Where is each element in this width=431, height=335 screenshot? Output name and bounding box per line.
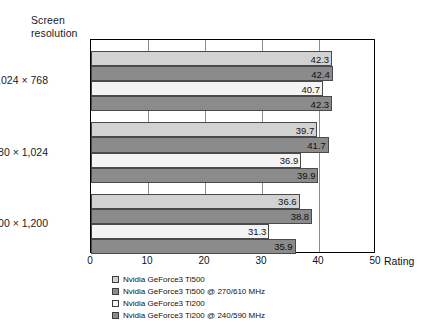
legend-swatch [112,300,119,307]
bar [91,153,301,168]
bar-value-label: 39.9 [288,170,315,181]
legend-label: Nvidia GeForce3 Ti200 [123,299,205,308]
category-label: 1,024 × 768 [0,74,48,86]
x-tick-label: 0 [87,255,93,266]
legend-item[interactable]: Nvidia GeForce3 Ti500 [112,274,265,285]
bar-value-label: 42.4 [303,68,330,79]
bar-row: 40.7 [91,81,374,96]
x-tick-label: 10 [141,255,152,266]
bar-row: 42.3 [91,96,374,111]
x-axis-title: Rating [384,255,414,267]
bar-value-label: 39.7 [287,124,314,135]
bar-value-label: 42.3 [302,53,329,64]
bar-row: 41.7 [91,137,374,152]
x-tick-label: 50 [369,255,380,266]
bar-chart: Screen resolution 42.342.440.742.339.741… [0,0,431,335]
bar-value-label: 36.6 [270,196,297,207]
bar-value-label: 41.7 [299,139,326,150]
legend: Nvidia GeForce3 Ti500Nvidia GeForce3 Ti5… [112,274,265,322]
bar-value-label: 36.9 [271,155,298,166]
x-tick-label: 30 [255,255,266,266]
plot-area: 42.342.440.742.339.741.736.939.936.638.8… [90,39,375,253]
legend-label: Nvidia GeForce3 Ti200 @ 240/590 MHz [123,311,265,320]
x-tick-label: 20 [198,255,209,266]
category-label: 1,600 × 1,200 [0,217,48,229]
legend-swatch [112,288,119,295]
y-axis-title: Screen resolution [31,14,78,40]
legend-item[interactable]: Nvidia GeForce3 Ti200 [112,298,265,309]
bar-value-label: 40.7 [293,83,320,94]
bar-group: 42.342.440.742.3 [91,51,374,111]
bar-row: 31.3 [91,224,374,239]
bar-row: 42.4 [91,66,374,81]
bar-row: 39.9 [91,168,374,183]
bar-row: 42.3 [91,51,374,66]
bar [91,137,329,152]
legend-swatch [112,312,119,319]
bar-value-label: 31.3 [239,226,266,237]
bar [91,51,332,66]
bar-row: 36.9 [91,153,374,168]
bar-groups: 42.342.440.742.339.741.736.939.936.638.8… [91,40,374,252]
bar-group: 39.741.736.939.9 [91,122,374,182]
bar-row: 38.8 [91,209,374,224]
bar-value-label: 38.8 [282,211,309,222]
bar [91,96,332,111]
bar-row: 35.9 [91,239,374,254]
bar [91,81,323,96]
legend-item[interactable]: Nvidia GeForce3 Ti500 @ 270/610 MHz [112,286,265,297]
x-tick-label: 40 [312,255,323,266]
legend-label: Nvidia GeForce3 Ti500 @ 270/610 MHz [123,287,265,296]
bar [91,122,317,137]
legend-label: Nvidia GeForce3 Ti500 [123,275,205,284]
legend-item[interactable]: Nvidia GeForce3 Ti200 @ 240/590 MHz [112,310,265,321]
bar-row: 39.7 [91,122,374,137]
bar [91,168,318,183]
bar [91,66,333,81]
bar [91,209,312,224]
bar-group: 36.638.831.335.9 [91,194,374,254]
bar-value-label: 42.3 [302,98,329,109]
category-label: 1,280 × 1,024 [0,146,48,158]
legend-swatch [112,276,119,283]
bar-row: 36.6 [91,194,374,209]
bar-value-label: 35.9 [266,241,293,252]
bar [91,194,300,209]
